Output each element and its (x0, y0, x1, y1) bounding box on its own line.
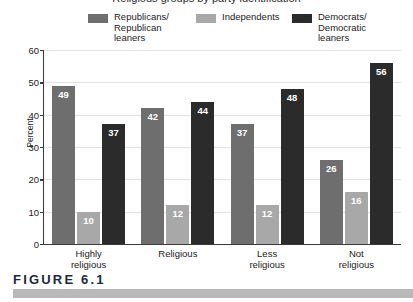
y-tick-label: 60 (28, 45, 39, 56)
bar-value-label: 48 (281, 92, 304, 103)
bar[interactable]: 12 (256, 205, 279, 244)
cut-off-title: Religious groups by party identification (0, 0, 413, 5)
bar[interactable]: 37 (231, 124, 254, 244)
bar[interactable]: 48 (281, 89, 304, 244)
bar[interactable]: 56 (370, 63, 393, 244)
legend-item-democrats: Democrats/ Democratic leaners (292, 12, 367, 44)
y-tick-mark (40, 244, 44, 245)
legend-label-republicans: Republicans/ Republican leaners (114, 12, 169, 44)
y-tick-label: 20 (28, 174, 39, 185)
figure-caption-bar (13, 289, 413, 298)
figure-caption: FIGURE 6.1 (13, 272, 106, 287)
bar-value-label: 10 (77, 215, 100, 226)
bar[interactable]: 26 (320, 160, 343, 244)
chart-legend: Republicans/ Republican leaners Independ… (0, 10, 413, 50)
bar-value-label: 49 (52, 89, 75, 100)
bar[interactable]: 16 (345, 192, 368, 244)
legend-label-independents: Independents (222, 12, 280, 23)
y-tick-label: 40 (28, 109, 39, 120)
bar-value-label: 16 (345, 195, 368, 206)
bar[interactable]: 44 (191, 102, 214, 244)
legend-item-republicans: Republicans/ Republican leaners (88, 12, 169, 44)
cut-off-title-text: Religious groups by party identification (0, 0, 413, 4)
bar-value-label: 44 (191, 105, 214, 116)
legend-swatch-icon (292, 14, 312, 23)
bar[interactable]: 42 (141, 108, 164, 244)
bar-group: 371248 (223, 50, 312, 244)
bar[interactable]: 37 (102, 124, 125, 244)
bar[interactable]: 12 (166, 205, 189, 244)
bar-group: 261656 (312, 50, 401, 244)
bar-value-label: 56 (370, 66, 393, 77)
bar-value-label: 12 (256, 208, 279, 219)
bar[interactable]: 10 (77, 212, 100, 244)
bar[interactable]: 49 (52, 86, 75, 244)
y-tick-label: 30 (28, 142, 39, 153)
bar-value-label: 37 (102, 127, 125, 138)
legend-swatch-icon (88, 14, 108, 23)
legend-label-democrats: Democrats/ Democratic leaners (318, 12, 367, 44)
legend-swatch-icon (196, 14, 216, 23)
y-tick-label: 10 (28, 206, 39, 217)
bar-value-label: 26 (320, 163, 343, 174)
bar-value-label: 37 (231, 127, 254, 138)
y-tick-label: 50 (28, 77, 39, 88)
bar-group: 421244 (133, 50, 222, 244)
chart-plot-area: Percent 0102030405060 491037421244371248… (43, 50, 401, 245)
x-tick-label: Not religious (301, 248, 411, 270)
bar-group: 491037 (44, 50, 133, 244)
legend-item-independents: Independents (196, 12, 280, 23)
bar-value-label: 12 (166, 208, 189, 219)
bar-value-label: 42 (141, 111, 164, 122)
